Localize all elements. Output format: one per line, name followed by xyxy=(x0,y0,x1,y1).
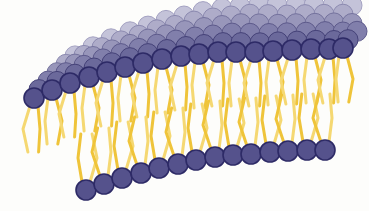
lipid-head xyxy=(131,163,151,183)
lipid-tail-lower xyxy=(78,134,82,182)
lipid-head xyxy=(297,140,317,160)
lipid-tail-lower xyxy=(188,104,192,152)
lipid-head xyxy=(115,57,135,77)
lipid-bilayer-illustration xyxy=(0,0,369,211)
lipid-head xyxy=(60,73,80,93)
lipid-tail-lower xyxy=(145,117,148,165)
lipid-head xyxy=(260,142,280,162)
lipid-head xyxy=(76,180,96,200)
lipid-head xyxy=(245,42,265,62)
lipid-tail-upper xyxy=(185,64,187,110)
lipid-head xyxy=(133,53,153,73)
lipid-head xyxy=(186,150,206,170)
lipid-tail-lower xyxy=(299,94,303,142)
lipid-tail-upper xyxy=(336,56,339,102)
lipid-head xyxy=(97,62,117,82)
lipid-head xyxy=(24,88,44,108)
lipid-head xyxy=(205,147,225,167)
lipid-tail-upper xyxy=(347,56,353,102)
lipid-tail-upper xyxy=(207,60,214,106)
lipid-head xyxy=(241,144,261,164)
lipid-head xyxy=(168,154,188,174)
lipid-tail-upper xyxy=(222,60,224,106)
lipid-tail-upper xyxy=(74,91,76,137)
lipid-tail-upper xyxy=(118,75,121,121)
lipid-head xyxy=(301,39,321,59)
lipid-head xyxy=(223,145,243,165)
lipid-head xyxy=(189,44,209,64)
lipid-head xyxy=(263,41,283,61)
lipid-tail-upper xyxy=(192,62,195,108)
lipid-tail-lower xyxy=(262,96,266,144)
lipid-tail-lower xyxy=(255,98,258,146)
lipid-tail-upper xyxy=(266,59,269,105)
lipid-tail-lower xyxy=(114,122,118,170)
lipid-head xyxy=(112,168,132,188)
lipid-head xyxy=(333,38,353,58)
lipid-tail-upper xyxy=(229,60,232,106)
lipid-tail-upper xyxy=(23,106,30,152)
lipid-head xyxy=(79,67,99,87)
lipid-tail-lower xyxy=(108,128,111,176)
lipid-tail-upper xyxy=(296,58,298,104)
lipid-tail-upper xyxy=(259,60,261,106)
lipid-tail-upper xyxy=(45,98,48,144)
lipid-tail-upper xyxy=(147,71,149,117)
lipid-tail-lower xyxy=(182,108,185,156)
lipid-head xyxy=(278,141,298,161)
lipid-head xyxy=(282,40,302,60)
lipid-head xyxy=(42,80,62,100)
lipid-head xyxy=(208,42,228,62)
lipid-tail-upper xyxy=(155,67,158,113)
lipid-tail-upper xyxy=(304,57,307,103)
lipid-tail-lower xyxy=(329,94,332,142)
lipid-tail-upper xyxy=(82,85,85,131)
lipid-head xyxy=(315,140,335,160)
lipid-head xyxy=(94,174,114,194)
lipid-tail-lower xyxy=(292,95,295,143)
lipid-head xyxy=(226,42,246,62)
lipid-head xyxy=(171,46,191,66)
lipid-tail-lower xyxy=(225,99,229,147)
lipid-tail-upper xyxy=(38,106,40,152)
lipid-head xyxy=(149,158,169,178)
lipid-tail-lower xyxy=(151,112,155,160)
lipid-tail-lower xyxy=(219,101,222,149)
lipid-head xyxy=(152,49,172,69)
lipid-tail-upper xyxy=(111,80,113,126)
